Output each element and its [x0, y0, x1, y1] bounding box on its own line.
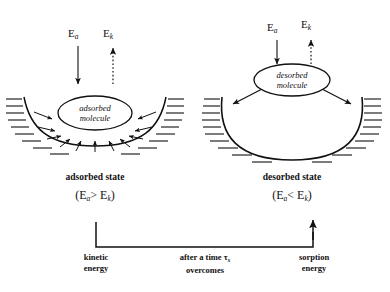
right-state-label: desorbed state — [242, 172, 342, 182]
left-state-label: adsorbed state — [45, 172, 145, 182]
right-well-hatching-left — [202, 99, 272, 162]
footer-right-caption: sorption energy — [281, 252, 347, 274]
figure-canvas: Ea Ek Ea Ek adsorbed molecule desorbed m… — [0, 0, 390, 292]
adsorbed-molecule-label-line2: molecule — [63, 114, 127, 124]
right-panel-graphics — [202, 40, 382, 162]
right-Ea-label: Ea — [267, 21, 277, 35]
footer-left-line2: energy — [63, 263, 129, 274]
diagram-vector-layer — [0, 0, 390, 292]
desorbed-molecule-label-line2: molecule — [260, 81, 324, 91]
footer-right-line1: sorption — [281, 252, 347, 263]
footer-left-line1: kinetic — [63, 252, 129, 263]
right-well-curve — [222, 97, 363, 160]
right-Ek-label: Ek — [301, 18, 311, 32]
footer-center-caption: after a time τs overcomes — [147, 252, 263, 276]
desorbed-molecule-label: desorbed molecule — [260, 71, 324, 90]
right-condition-label: (Ea< Ek) — [242, 188, 342, 203]
left-Ek-label: Ek — [103, 27, 113, 41]
footer-left-caption: kinetic energy — [63, 252, 129, 274]
footer-right-line2: energy — [281, 263, 347, 274]
footer-bracket — [96, 220, 313, 247]
footer-center-line2: overcomes — [147, 265, 263, 276]
right-well-hatching-right — [312, 99, 382, 162]
adsorbed-molecule-label: adsorbed molecule — [63, 104, 127, 123]
left-condition-label: (Ea> Ek) — [45, 188, 145, 203]
left-panel-graphics — [6, 46, 184, 154]
left-Ea-label: Ea — [68, 27, 78, 41]
footer-center-line1: after a time τs — [147, 252, 263, 265]
